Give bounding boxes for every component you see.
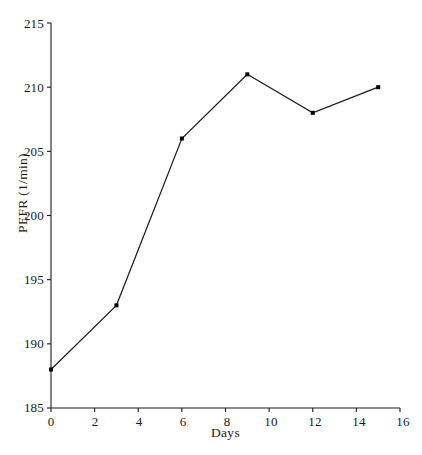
data-point xyxy=(245,72,249,76)
x-tick-marks xyxy=(51,408,400,412)
data-markers xyxy=(49,72,380,371)
chart-figure: 215 210 205 200 195 190 185 0 2 4 6 8 10… xyxy=(0,0,422,455)
data-point xyxy=(311,111,315,115)
data-line xyxy=(51,74,378,369)
data-point xyxy=(376,85,380,89)
data-point xyxy=(180,137,184,141)
data-point xyxy=(49,368,53,372)
y-tick-marks xyxy=(47,23,51,408)
data-point xyxy=(114,303,118,307)
plot-area xyxy=(0,0,422,455)
axis-lines xyxy=(51,23,400,408)
